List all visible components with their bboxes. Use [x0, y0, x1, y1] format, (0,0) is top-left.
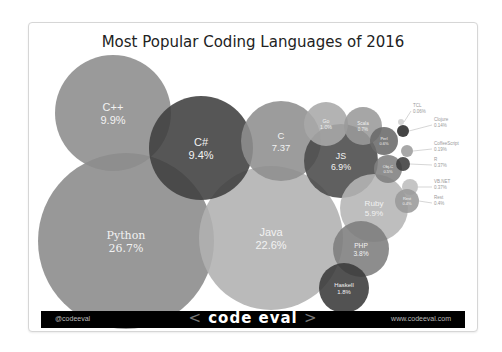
svg-text:3.8%: 3.8%: [353, 250, 368, 257]
bubble-obj-c: Obj-C0.5%: [374, 155, 402, 183]
svg-text:C: C: [278, 130, 285, 141]
callout-tcl: TCL0.06%: [404, 103, 426, 122]
svg-text:0.4%: 0.4%: [434, 201, 444, 206]
bubble-go: Go1.0%: [304, 102, 348, 146]
bubble-tcl: [398, 119, 404, 125]
callout-coffeescript: CoffeeScript0.19%: [413, 141, 459, 152]
svg-text:1.0%: 1.0%: [320, 124, 332, 130]
svg-text:0.19%: 0.19%: [434, 147, 447, 152]
bubble-clojure: [397, 125, 409, 137]
svg-text:22.6%: 22.6%: [255, 239, 286, 251]
svg-text:0.06%: 0.06%: [413, 109, 426, 114]
svg-text:0.37%: 0.37%: [434, 163, 447, 168]
svg-text:Haskell: Haskell: [334, 282, 353, 288]
svg-text:C++: C++: [103, 101, 124, 113]
svg-text:Rest: Rest: [434, 195, 444, 200]
bubble-haskell: Haskell1.8%: [319, 263, 369, 313]
svg-text:6.9%: 6.9%: [331, 162, 351, 172]
svg-text:9.4%: 9.4%: [188, 149, 213, 161]
svg-text:0.37%: 0.37%: [434, 185, 447, 190]
svg-text:PHP: PHP: [354, 242, 368, 249]
svg-text:Scala: Scala: [357, 121, 369, 126]
svg-text:0.5%: 0.5%: [383, 169, 393, 174]
svg-text:Java: Java: [259, 226, 283, 238]
bubble-rest: Rest0.4%: [395, 189, 419, 213]
bubble-r: [396, 157, 410, 171]
svg-text:0.7%: 0.7%: [358, 127, 368, 132]
bubble-perl: Perl0.6%: [370, 127, 398, 155]
svg-text:VB.NET: VB.NET: [434, 179, 451, 184]
svg-text:Clojure: Clojure: [434, 117, 449, 122]
svg-text:Go: Go: [323, 118, 330, 124]
bubble-coffeescript: [401, 145, 413, 157]
svg-text:0.6%: 0.6%: [379, 141, 389, 146]
website-link[interactable]: www.codeeval.com: [391, 315, 451, 322]
svg-text:0.4%: 0.4%: [402, 201, 412, 206]
svg-text:26.7%: 26.7%: [109, 242, 144, 255]
svg-text:5.9%: 5.9%: [365, 209, 383, 218]
callout-clojure: Clojure0.14%: [409, 117, 449, 131]
callout-rest: Rest0.4%: [419, 195, 444, 206]
svg-text:JS: JS: [336, 151, 346, 161]
svg-text:R: R: [434, 157, 438, 162]
svg-text:9.9%: 9.9%: [100, 114, 125, 126]
svg-text:CoffeeScript: CoffeeScript: [434, 141, 459, 146]
callout-vb-net: VB.NET0.37%: [418, 179, 451, 190]
bubble-chart: Python26.7%Java22.6%C++9.9%C#9.4%C7.37JS…: [29, 23, 477, 331]
callout-r: R0.37%: [410, 157, 447, 168]
svg-text:7.37: 7.37: [272, 142, 291, 153]
svg-text:Ruby: Ruby: [365, 199, 385, 208]
footer-bar: @codeeval < code eval > www.codeeval.com: [41, 311, 465, 328]
svg-text:1.8%: 1.8%: [337, 289, 351, 295]
chart-card: Most Popular Coding Languages of 2016 Py…: [28, 22, 478, 332]
svg-text:C#: C#: [194, 136, 209, 148]
svg-text:TCL: TCL: [413, 103, 422, 108]
bubble-c-: C#9.4%: [149, 96, 253, 200]
svg-text:0.14%: 0.14%: [434, 123, 447, 128]
svg-text:Python: Python: [107, 229, 146, 242]
